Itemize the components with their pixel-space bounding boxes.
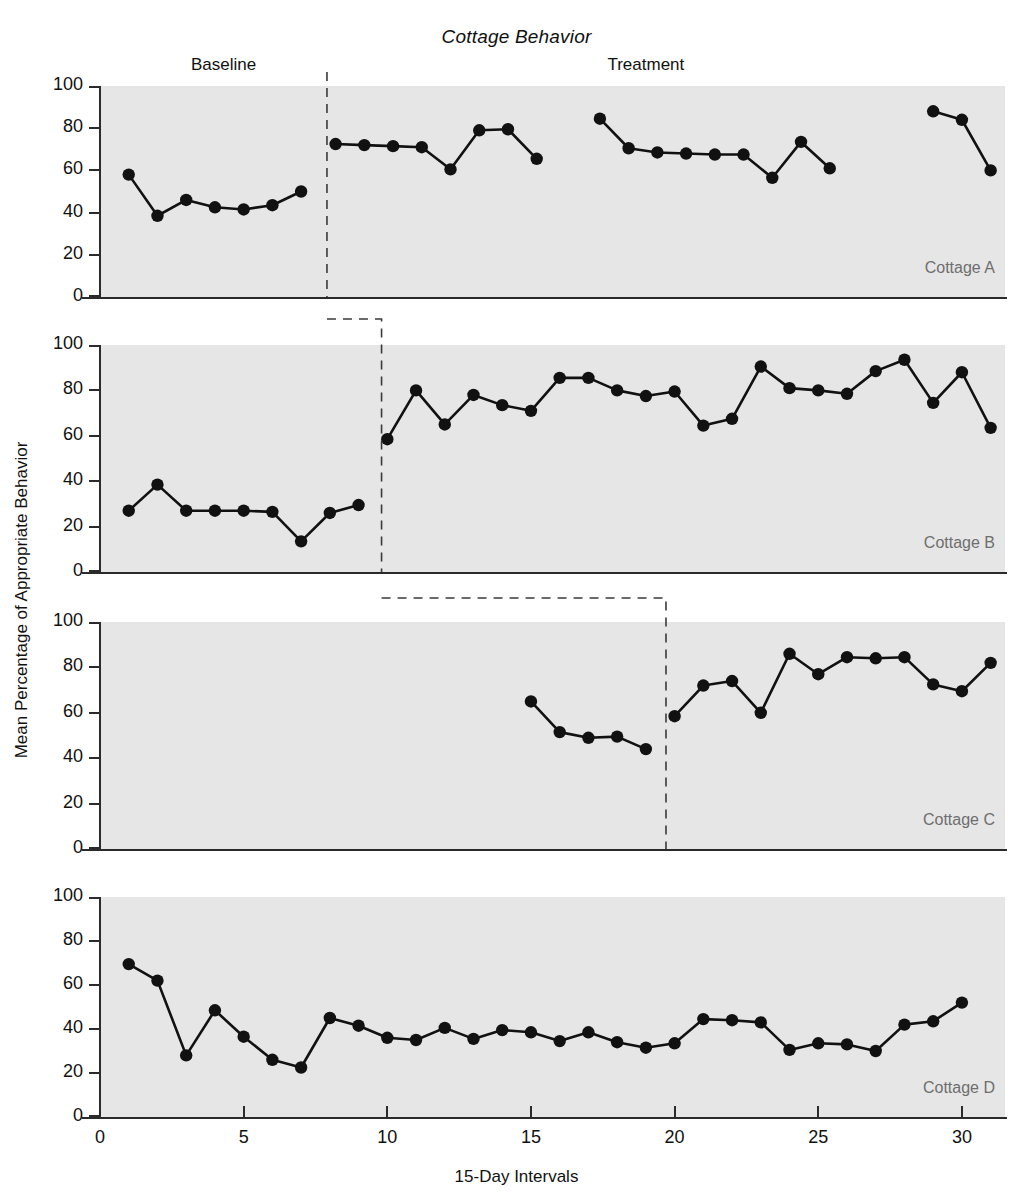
phase-line-cottage-b	[327, 319, 382, 572]
figure-root: Cottage Behavior Baseline Treatment Mean…	[0, 0, 1033, 1199]
phase-change-connector-layer	[0, 0, 1033, 1199]
phase-line-cottage-c	[382, 598, 666, 849]
